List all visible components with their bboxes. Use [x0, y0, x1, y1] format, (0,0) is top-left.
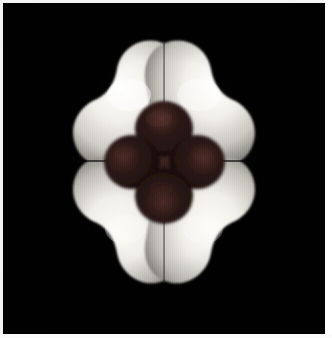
specular-inner-bottom [149, 181, 173, 195]
plate-border-right [325, 0, 332, 338]
orbital-isosurface-svg [3, 3, 325, 334]
plate-border-left [0, 0, 3, 338]
plate-border-top [0, 0, 332, 3]
specular-outer-bottom-right [183, 214, 223, 244]
specular-inner-left [113, 146, 135, 160]
specular-outer-top-left [107, 79, 151, 111]
render-canvas [3, 3, 325, 334]
specular-outer-top-right [177, 79, 221, 111]
plate-border-bottom [0, 334, 332, 338]
specular-outer-bottom-left [105, 214, 145, 244]
inner-lobe-bottom [135, 168, 193, 224]
specular-inner-right [191, 147, 213, 161]
orbital-figure-viewer [0, 0, 332, 338]
specular-inner-top [146, 111, 172, 127]
